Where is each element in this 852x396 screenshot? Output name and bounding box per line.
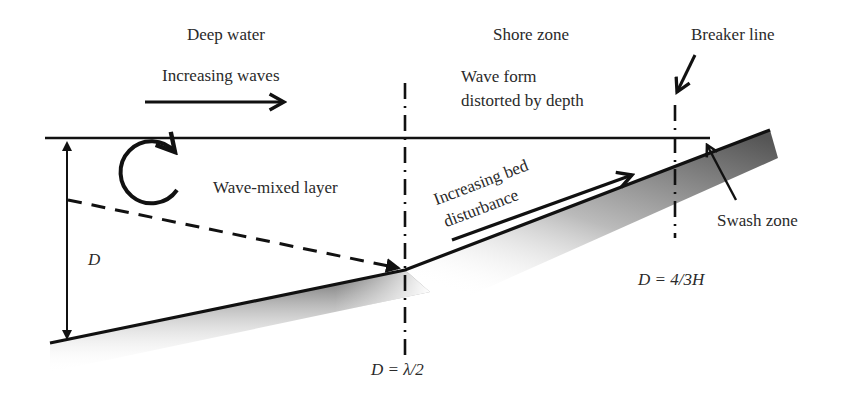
sea-bed-line [50,130,770,343]
wave-zone-diagram [0,0,852,396]
label-deep-water: Deep water [187,25,265,45]
label-breaker-line: Breaker line [691,25,775,45]
label-breaker-eq: D = 4/3H [638,270,704,290]
label-deep-boundary-eq: D = λ/2 [371,360,424,380]
label-wave-mixed-layer: Wave-mixed layer [213,178,338,198]
circular-orbit-icon [121,141,177,203]
label-depth-d: D [88,250,100,270]
label-wave-form-1: Wave form [461,67,537,87]
label-swash-zone: Swash zone [717,211,798,231]
wave-mixed-layer-base [68,200,398,268]
breaker-pointer-arrow [677,55,695,92]
label-wave-form-2: distorted by depth [461,91,584,111]
label-shore-zone: Shore zone [493,25,569,45]
bed-shading-deep [50,270,430,372]
label-increasing-waves: Increasing waves [162,66,280,86]
